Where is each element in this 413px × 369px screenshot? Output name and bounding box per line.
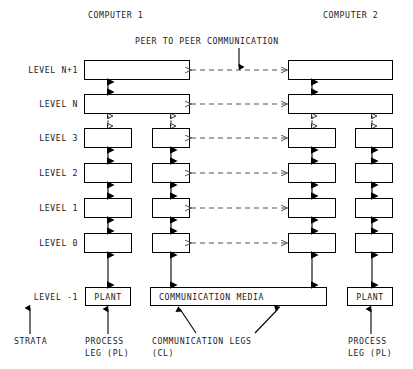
- architecture-diagram: COMPUTER 1 COMPUTER 2 PEER TO PEER COMMU…: [0, 0, 413, 369]
- pointer-communication-leg-2: [255, 309, 278, 333]
- pointer-communication-leg-1: [180, 309, 196, 333]
- connector-layer: [0, 0, 413, 369]
